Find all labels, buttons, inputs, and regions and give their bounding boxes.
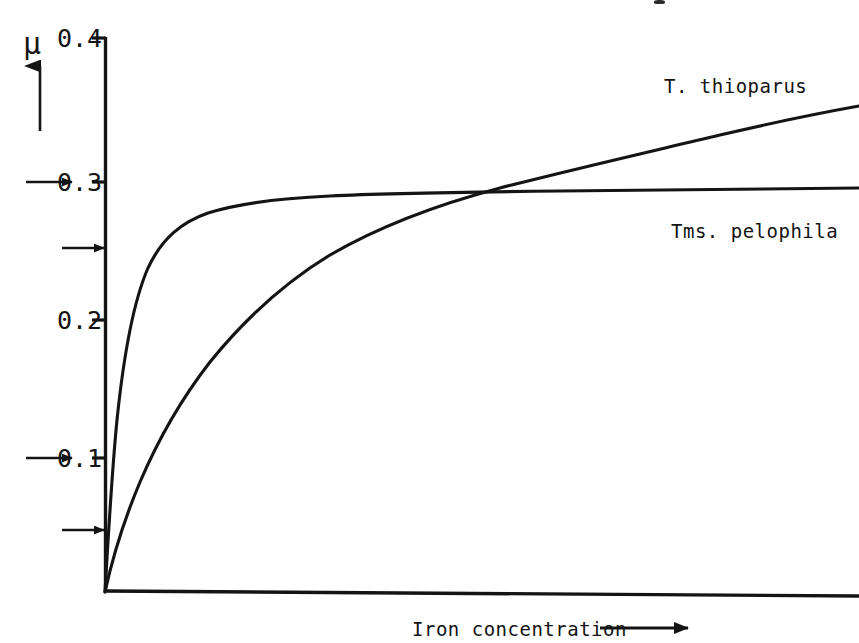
curve-label-t-thioparus: T. thioparus — [664, 75, 807, 97]
y-tick-label-0.2: 0.2 — [57, 306, 102, 335]
curve-label-tms-pelophila: Tms. pelophila — [671, 220, 838, 242]
chart-figure: μ 0.4 0.3 0.2 0.1 T. thioparus Tms. pelo… — [0, 0, 859, 643]
y-tick-label-0.1: 0.1 — [57, 444, 102, 473]
curve-t-thioparus — [105, 106, 859, 592]
y-axis-symbol: μ — [23, 26, 41, 61]
y-tick-label-0.3: 0.3 — [57, 168, 102, 197]
y-tick-label-0.4: 0.4 — [57, 24, 102, 53]
curve-tms-pelophila — [105, 188, 859, 592]
y-value-marker-arrows — [26, 182, 104, 530]
x-axis-line — [105, 591, 859, 596]
x-axis-title: Iron concentration — [412, 618, 627, 640]
